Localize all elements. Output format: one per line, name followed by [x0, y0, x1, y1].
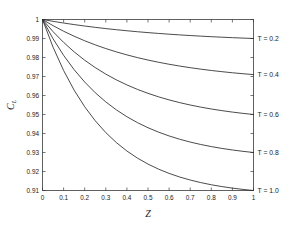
x-tick-label: 0.2	[80, 194, 89, 201]
x-tick-label: 0.1	[59, 194, 68, 201]
y-tick-label: 1	[35, 16, 39, 23]
y-axis-title-subscript: L	[11, 99, 17, 104]
line-chart: 00.10.20.30.40.50.60.70.80.910.910.920.9…	[0, 0, 306, 231]
series-label-1: T = 0.2	[258, 35, 279, 42]
x-tick-label: 0.9	[228, 194, 237, 201]
series-label-4: T = 0.8	[258, 149, 279, 156]
x-tick-label: 0.7	[186, 194, 195, 201]
x-tick-label: 0	[41, 194, 45, 201]
x-tick-label: 0.5	[144, 194, 153, 201]
y-tick-label: 0.92	[27, 168, 40, 175]
y-tick-label: 0.96	[27, 92, 40, 99]
x-tick-label: 0.4	[122, 194, 131, 201]
series-curve-5	[43, 20, 254, 191]
chart-figure: 00.10.20.30.40.50.60.70.80.910.910.920.9…	[0, 0, 306, 231]
x-axis-title: Z	[145, 208, 151, 219]
y-tick-label: 0.97	[27, 73, 40, 80]
y-tick-label: 0.99	[27, 35, 40, 42]
x-tick-label: 1	[252, 194, 256, 201]
series-label-2: T = 0.4	[258, 71, 279, 78]
y-tick-label: 0.98	[27, 54, 40, 61]
x-tick-label: 0.3	[101, 194, 110, 201]
y-tick-label: 0.91	[27, 187, 40, 194]
series-label-3: T = 0.6	[258, 111, 279, 118]
y-tick-label: 0.95	[27, 111, 40, 118]
series-label-5: T = 1.0	[258, 187, 279, 194]
series-curve-2	[43, 20, 254, 75]
plot-frame	[43, 20, 254, 191]
series-curve-3	[43, 20, 254, 115]
y-axis-title: CL	[5, 99, 17, 110]
y-tick-label: 0.94	[27, 130, 40, 137]
x-tick-label: 0.8	[207, 194, 216, 201]
x-tick-label: 0.6	[165, 194, 174, 201]
series-curve-4	[43, 20, 254, 153]
y-tick-label: 0.93	[27, 149, 40, 156]
